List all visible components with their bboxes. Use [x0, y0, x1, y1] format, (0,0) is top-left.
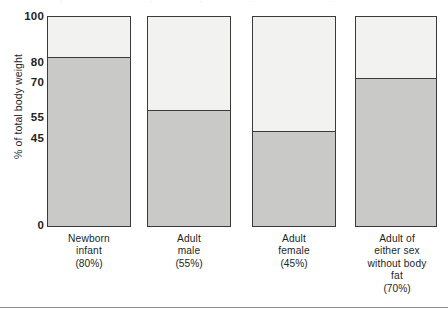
y-axis-tick-labels: 100 80 70 55 45 0: [0, 0, 44, 319]
body-water-stacked-bar-chart: . . . . . % of total body weight 100 80 …: [0, 0, 448, 319]
category-line: female: [252, 245, 336, 257]
category-percent: (70%): [349, 283, 445, 295]
category-percent: (45%): [252, 258, 336, 270]
category-line: fat: [349, 270, 445, 282]
bar-segment-water-adult-without-body-fat: [356, 78, 436, 226]
category-line: Adult: [147, 233, 231, 245]
category-line: Adult: [252, 233, 336, 245]
category-label-adult-male: Adult male (55%): [147, 233, 231, 270]
y-tick-55: 55: [2, 112, 44, 124]
bar-adult-male: [147, 16, 231, 227]
bar-adult-female: [252, 16, 336, 227]
category-percent: (55%): [147, 258, 231, 270]
bar-segment-water-adult-female: [253, 131, 335, 226]
category-line: Adult of: [349, 233, 445, 245]
y-tick-45: 45: [2, 133, 44, 145]
bottom-divider-rule: [0, 307, 448, 308]
category-percent: (80%): [47, 258, 131, 270]
category-label-newborn-infant: Newborn infant (80%): [47, 233, 131, 270]
bar-newborn-infant: [47, 16, 131, 227]
category-line: male: [147, 245, 231, 257]
clipped-text-artifact: . . . . .: [0, 0, 448, 5]
y-tick-80: 80: [2, 57, 44, 69]
category-line: infant: [47, 245, 131, 257]
y-tick-100: 100: [2, 11, 44, 23]
category-line: either sex: [349, 245, 445, 257]
bar-segment-water-newborn-infant: [48, 57, 130, 226]
y-tick-70: 70: [2, 77, 44, 89]
y-tick-0: 0: [2, 220, 44, 232]
plot-area: [47, 16, 437, 227]
category-label-adult-without-body-fat: Adult of either sex without body fat (70…: [349, 233, 445, 295]
bar-segment-water-adult-male: [148, 110, 230, 226]
category-line: without body: [349, 258, 445, 270]
category-line: Newborn: [47, 233, 131, 245]
category-label-adult-female: Adult female (45%): [252, 233, 336, 270]
bar-adult-without-body-fat: [355, 16, 437, 227]
